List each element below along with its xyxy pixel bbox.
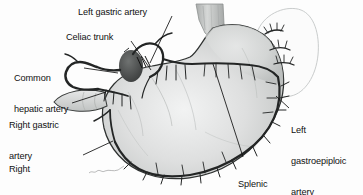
- label-splenic-artery-line1: Splenic: [238, 179, 267, 189]
- label-right-gastroepiploic-artery: Right gastroepiploic artery: [9, 143, 64, 195]
- label-common-hepatic-artery-line1: Common: [14, 73, 68, 83]
- label-left-gastroepiploic-artery-line3: artery: [291, 187, 346, 195]
- label-left-gastroepiploic-artery-line2: gastroepiploic: [291, 156, 346, 166]
- anatomical-figure: Left gastric artery Celiac trunk Common …: [0, 0, 363, 195]
- leader-line-left-gastric: [150, 16, 172, 63]
- artist-signature: [89, 166, 124, 173]
- label-left-gastroepiploic-artery-line1: Left: [291, 125, 346, 135]
- label-right-gastroepiploic-artery-line1: Right: [9, 164, 64, 174]
- label-right-gastric-artery-line1: Right gastric: [9, 120, 59, 130]
- label-left-gastroepiploic-artery: Left gastroepiploic artery: [291, 104, 346, 195]
- label-left-gastric-artery: Left gastric artery: [78, 7, 147, 17]
- leader-line-right-gastroepiploic: [83, 141, 113, 155]
- label-celiac-trunk: Celiac trunk: [66, 32, 113, 42]
- label-splenic-artery: Splenic artery: [238, 158, 267, 195]
